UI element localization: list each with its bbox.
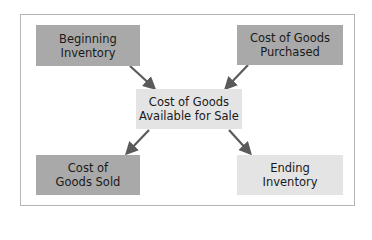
node-cost-of-goods-sold: Cost ofGoods Sold — [36, 155, 140, 195]
node-label: Cost of — [68, 161, 108, 175]
node-cost-of-goods-purchased: Cost of GoodsPurchased — [237, 25, 343, 65]
node-label: Ending — [270, 161, 310, 175]
node-label: Goods Sold — [56, 175, 121, 189]
node-cost-of-goods-available: Cost of GoodsAvailable for Sale — [136, 89, 242, 129]
node-label: Cost of Goods — [149, 95, 229, 109]
node-beginning-inventory: BeginningInventory — [36, 25, 140, 66]
arrow-available-to-ending — [229, 130, 249, 152]
arrow-beginning-to-available — [130, 66, 153, 87]
arrow-available-to-sold — [128, 130, 149, 152]
node-label: Cost of Goods — [250, 31, 330, 45]
node-label: Available for Sale — [139, 109, 239, 123]
node-label: Beginning — [59, 32, 117, 46]
node-label: Inventory — [61, 46, 116, 60]
arrow-purchased-to-available — [227, 65, 248, 87]
node-label: Inventory — [263, 175, 318, 189]
node-ending-inventory: EndingInventory — [237, 155, 343, 195]
node-label: Purchased — [260, 45, 320, 59]
